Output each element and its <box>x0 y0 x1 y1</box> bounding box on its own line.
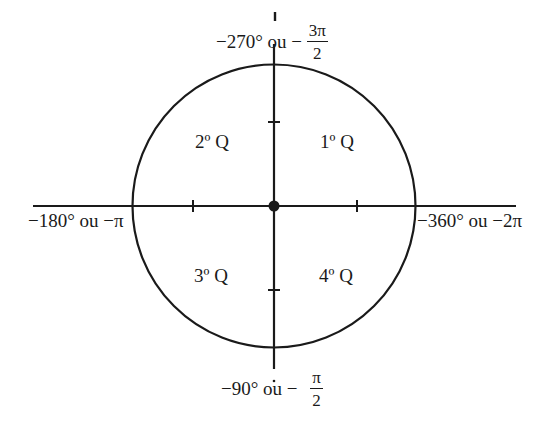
axis-label-left: −180° ou −π <box>28 210 124 232</box>
axis-label-right: −360° ou −2π <box>417 210 522 232</box>
quadrant-1-label: 1º Q <box>320 131 354 153</box>
axis-label-top-degrees: −270° ou − <box>216 31 302 52</box>
quadrant-2-label: 2º Q <box>195 131 229 153</box>
axis-label-top-fraction: 3π 2 <box>307 22 328 62</box>
fraction-numerator: 3π <box>307 22 328 42</box>
fraction-denominator: 2 <box>310 389 323 409</box>
origin-dot <box>269 201 280 212</box>
axis-label-bottom-fraction: π 2 <box>310 369 323 409</box>
axis-label-bottom-degrees: −90° ou − <box>221 378 298 399</box>
axis-label-bottom: −90° ou − π 2 <box>221 369 323 409</box>
axis-label-top: −270° ou − 3π 2 <box>216 22 328 62</box>
quadrant-3-label: 3º Q <box>194 265 228 287</box>
fraction-denominator: 2 <box>307 42 328 62</box>
fraction-numerator: π <box>310 369 323 389</box>
quadrant-4-label: 4º Q <box>319 265 353 287</box>
